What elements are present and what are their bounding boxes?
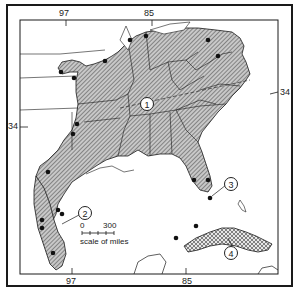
callout-1: 1 xyxy=(140,97,154,111)
callout-2: 2 xyxy=(78,206,92,220)
longitude-label-bottom-85: 85 xyxy=(182,277,192,286)
scale-start-label: 0 xyxy=(80,222,84,230)
latitude-label-left-34: 34 xyxy=(8,122,18,131)
longitude-label-top-85: 85 xyxy=(144,9,154,18)
scale-end-label: 300 xyxy=(103,222,116,230)
latitude-label-right-34: 34 xyxy=(280,88,290,97)
longitude-label-bottom-97: 97 xyxy=(66,277,76,286)
range-map xyxy=(0,0,306,293)
callout-4: 4 xyxy=(224,246,238,260)
scale-caption: scale of miles xyxy=(80,238,128,246)
longitude-label-top-97: 97 xyxy=(59,9,69,18)
callout-3: 3 xyxy=(224,177,238,191)
